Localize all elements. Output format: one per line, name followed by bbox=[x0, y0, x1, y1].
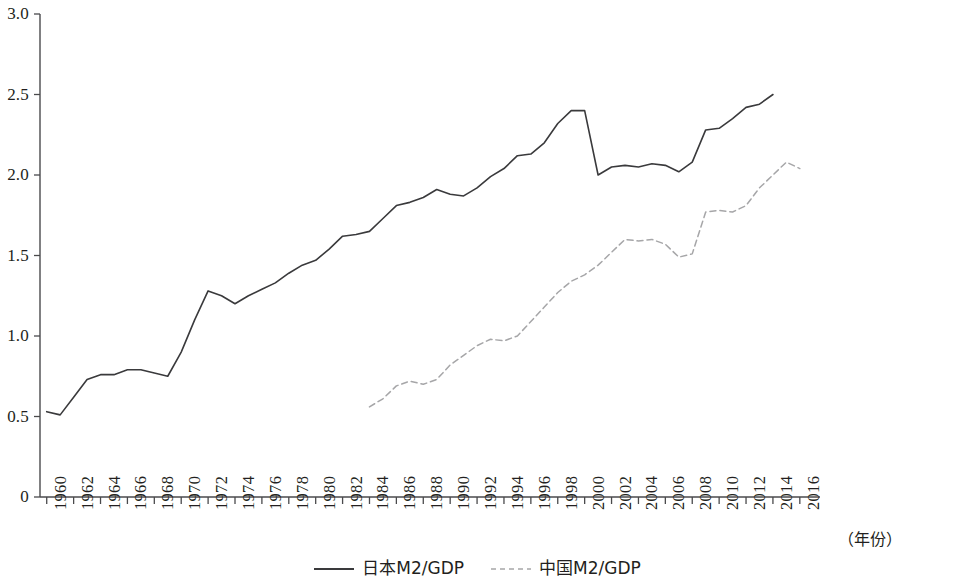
x-axis-tick-label: 2000 bbox=[591, 476, 608, 510]
axis-lines bbox=[40, 14, 820, 497]
y-axis-tick-label: 0.5 bbox=[7, 408, 29, 425]
series-line-japan bbox=[47, 95, 773, 415]
x-axis-tick-label: 2010 bbox=[725, 476, 742, 510]
x-axis-tick-label: 2006 bbox=[671, 476, 688, 510]
y-axis-tick-label: 2.5 bbox=[7, 86, 29, 103]
x-axis-tick-label: 1988 bbox=[429, 476, 446, 510]
x-axis-tick-label: 1986 bbox=[402, 476, 419, 510]
x-axis-tick-label: 1980 bbox=[322, 476, 339, 510]
legend-label: 日本M2/GDP bbox=[362, 560, 464, 577]
x-axis-tick-label: 2002 bbox=[618, 476, 635, 510]
y-axis-ticks bbox=[34, 14, 40, 497]
x-axis-tick-label: 1968 bbox=[160, 476, 177, 510]
y-axis-tick-label: 1.0 bbox=[7, 327, 29, 344]
x-axis-tick-label: 2014 bbox=[779, 476, 796, 510]
y-axis-tick-label: 2.0 bbox=[7, 166, 29, 183]
x-axis-tick-label: 2012 bbox=[752, 476, 769, 510]
x-axis-tick-label: 1972 bbox=[214, 476, 231, 510]
x-axis-tick-label: 1964 bbox=[107, 476, 124, 510]
legend-entry[interactable]: 中国M2/GDP bbox=[490, 560, 641, 577]
x-axis-tick-label: 1984 bbox=[375, 476, 392, 510]
x-axis-tick-label: 1966 bbox=[133, 476, 150, 510]
legend-swatch-dashed bbox=[490, 563, 532, 575]
x-axis-tick-label: 1976 bbox=[268, 476, 285, 510]
x-axis-tick-label: 1962 bbox=[80, 476, 97, 510]
legend-label: 中国M2/GDP bbox=[539, 560, 641, 577]
x-axis-tick-label: 2008 bbox=[698, 476, 715, 510]
chart-legend: 日本M2/GDP中国M2/GDP bbox=[0, 560, 954, 577]
x-axis-tick-label: 1996 bbox=[537, 476, 554, 510]
x-axis-tick-label: 1974 bbox=[241, 476, 258, 510]
x-axis-tick-label: 1994 bbox=[510, 476, 527, 510]
legend-swatch-solid bbox=[313, 563, 355, 575]
y-axis-tick-label: 0 bbox=[20, 488, 29, 505]
x-axis-tick-label: 1990 bbox=[456, 476, 473, 510]
x-axis-title: （年份） bbox=[838, 532, 902, 548]
x-axis-tick-label: 2016 bbox=[806, 476, 823, 510]
x-axis-tick-label: 1960 bbox=[53, 476, 70, 510]
x-axis-tick-label: 1970 bbox=[187, 476, 204, 510]
y-axis-tick-label: 3.0 bbox=[7, 5, 29, 22]
x-axis-tick-label: 1978 bbox=[295, 476, 312, 510]
x-axis-tick-label: 1982 bbox=[349, 476, 366, 510]
y-axis-tick-label: 1.5 bbox=[7, 247, 29, 264]
data-series-group bbox=[47, 95, 800, 415]
x-axis-tick-label: 1998 bbox=[564, 476, 581, 510]
x-axis-tick-label: 2004 bbox=[644, 476, 661, 510]
series-line-china bbox=[369, 162, 799, 407]
x-axis-tick-label: 1992 bbox=[483, 476, 500, 510]
chart-figure: 00.51.01.52.02.53.0 19601962196419661968… bbox=[0, 0, 954, 588]
legend-entry[interactable]: 日本M2/GDP bbox=[313, 560, 464, 577]
